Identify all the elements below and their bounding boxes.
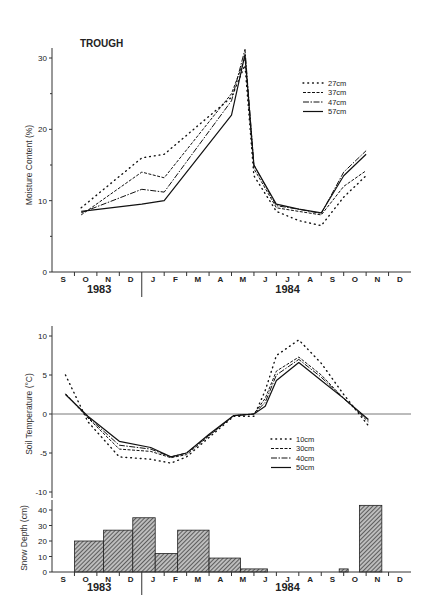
year-label-1984: 1984 xyxy=(275,283,300,295)
month-label: M xyxy=(195,575,202,584)
y-tick-label: 30 xyxy=(38,54,47,63)
moisture-chart: TROUGH0102030Moisture Content (%)27cm37c… xyxy=(24,38,411,297)
month-label: N xyxy=(374,275,380,284)
chart-title: TROUGH xyxy=(80,38,123,49)
month-label: S xyxy=(61,275,67,284)
legend-label-37cm: 37cm xyxy=(328,88,346,97)
legend-label-27cm: 27cm xyxy=(328,79,346,88)
snow-depth-chart: 010203040Snow Depth (cm)SONDJFMAMJJASOND… xyxy=(19,500,411,595)
y-axis-label: Snow Depth (cm) xyxy=(19,505,29,571)
y-tick-label: 10 xyxy=(38,332,47,341)
month-label: M xyxy=(195,275,202,284)
snow-bar xyxy=(155,553,177,572)
y-tick-label: -5 xyxy=(40,449,48,458)
y-tick-label: 20 xyxy=(38,537,47,546)
month-label: J xyxy=(151,275,155,284)
snow-bar xyxy=(209,558,240,572)
series-line-30cm xyxy=(66,357,369,458)
y-axis-label: Soil Temperature (°C) xyxy=(24,373,34,455)
month-label: D xyxy=(128,575,134,584)
series-line-10cm xyxy=(66,340,369,463)
year-label-1983: 1983 xyxy=(87,581,111,593)
month-label: D xyxy=(397,575,403,584)
y-tick-label: 20 xyxy=(38,125,47,134)
month-label: J xyxy=(151,575,155,584)
legend-label-10cm: 10cm xyxy=(296,435,314,444)
month-label: O xyxy=(352,575,358,584)
legend-label-47cm: 47cm xyxy=(328,98,346,107)
month-label: D xyxy=(397,275,403,284)
y-tick-label: 10 xyxy=(38,553,47,562)
month-label: A xyxy=(217,575,223,584)
series-line-47cm xyxy=(81,49,366,213)
month-label: S xyxy=(330,275,336,284)
legend-label-30cm: 30cm xyxy=(296,444,314,453)
y-tick-label: 10 xyxy=(38,197,47,206)
series-line-40cm xyxy=(66,359,369,457)
figure: TROUGH0102030Moisture Content (%)27cm37c… xyxy=(0,0,429,595)
month-label: N xyxy=(374,575,380,584)
snow-bar xyxy=(178,530,209,572)
snow-bar xyxy=(133,518,155,572)
month-label: O xyxy=(352,275,358,284)
month-label: J xyxy=(263,575,267,584)
month-label: A xyxy=(307,575,313,584)
soil-temperature-chart: -10-50510Soil Temperature (°C)10cm30cm40… xyxy=(24,326,411,498)
y-tick-label: 40 xyxy=(38,506,47,515)
month-label: D xyxy=(128,275,134,284)
snow-bar xyxy=(104,530,133,572)
legend-label-57cm: 57cm xyxy=(328,107,346,116)
series-line-57cm xyxy=(81,54,366,212)
y-tick-label: 5 xyxy=(43,371,48,380)
year-label-1984: 1984 xyxy=(275,581,300,593)
y-tick-label: -10 xyxy=(35,488,47,497)
month-label: A xyxy=(307,275,313,284)
legend-label-40cm: 40cm xyxy=(296,454,314,463)
series-line-27cm xyxy=(81,65,366,226)
snow-bar xyxy=(359,505,381,572)
month-label: M xyxy=(239,575,246,584)
y-tick-label: 30 xyxy=(38,522,47,531)
y-axis-label: Moisture Content (%) xyxy=(24,125,34,205)
y-tick-label: 0 xyxy=(43,268,48,277)
y-tick-label: 0 xyxy=(43,410,48,419)
snow-bar xyxy=(74,541,103,572)
month-label: M xyxy=(239,275,246,284)
month-label: S xyxy=(330,575,336,584)
month-label: J xyxy=(263,275,267,284)
legend-label-50cm: 50cm xyxy=(296,463,314,472)
series-line-37cm xyxy=(81,58,366,215)
year-label-1983: 1983 xyxy=(87,283,111,295)
month-label: F xyxy=(173,575,178,584)
month-label: F xyxy=(173,275,178,284)
month-label: S xyxy=(61,575,67,584)
y-tick-label: 0 xyxy=(43,568,48,577)
month-label: A xyxy=(217,275,223,284)
